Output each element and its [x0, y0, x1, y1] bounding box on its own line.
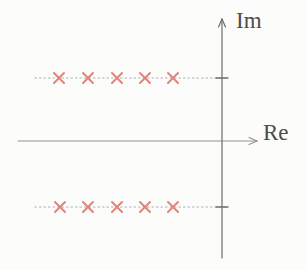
diagram-canvas — [0, 0, 307, 270]
re-axis-label: Re — [263, 121, 289, 145]
im-axis-label: Im — [236, 9, 262, 33]
complex-plane-figure: Im Re — [0, 0, 307, 270]
